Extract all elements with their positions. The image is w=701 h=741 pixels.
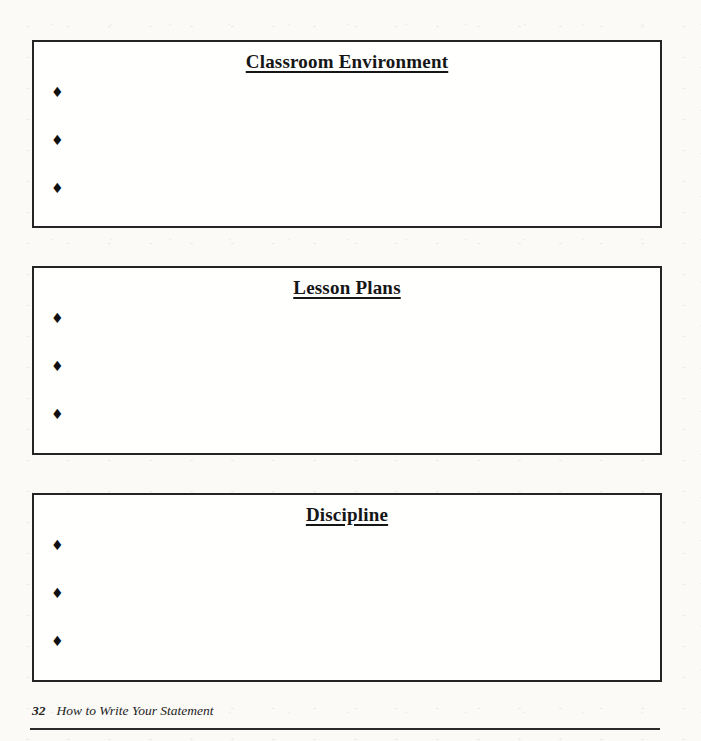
- diamond-bullet-icon: ♦: [51, 407, 64, 421]
- bullet-row: ♦: [51, 180, 624, 196]
- bullet-blank-space: [64, 311, 624, 325]
- bullet-row: ♦: [51, 406, 624, 422]
- bullet-row: ♦: [51, 358, 624, 374]
- bullet-blank-space: [64, 133, 624, 147]
- bullet-blank-space: [64, 538, 624, 552]
- footer-page-number: 32: [32, 703, 46, 719]
- bullet-blank-space: [64, 634, 624, 648]
- section-box-classroom-environment: Classroom Environment ♦ ♦ ♦: [32, 40, 662, 228]
- section-box-discipline: Discipline ♦ ♦ ♦: [32, 493, 662, 682]
- bullet-row: ♦: [51, 633, 624, 649]
- bullet-row: ♦: [51, 585, 624, 601]
- footer-book-title: How to Write Your Statement: [57, 703, 214, 719]
- diamond-bullet-icon: ♦: [51, 311, 64, 325]
- diamond-bullet-icon: ♦: [51, 634, 64, 648]
- diamond-bullet-icon: ♦: [51, 586, 64, 600]
- section-box-lesson-plans: Lesson Plans ♦ ♦ ♦: [32, 266, 662, 455]
- footer-divider-rule: [30, 728, 660, 730]
- bullet-blank-space: [64, 85, 624, 99]
- bullet-blank-space: [64, 586, 624, 600]
- bullet-blank-space: [64, 407, 624, 421]
- section-title: Lesson Plans: [34, 277, 660, 299]
- bullet-row: ♦: [51, 537, 624, 553]
- section-title: Classroom Environment: [34, 51, 660, 73]
- diamond-bullet-icon: ♦: [51, 538, 64, 552]
- page-footer: 32 How to Write Your Statement: [32, 703, 214, 719]
- diamond-bullet-icon: ♦: [51, 181, 64, 195]
- bullet-row: ♦: [51, 132, 624, 148]
- diamond-bullet-icon: ♦: [51, 133, 64, 147]
- diamond-bullet-icon: ♦: [51, 359, 64, 373]
- bullet-row: ♦: [51, 310, 624, 326]
- bullet-blank-space: [64, 181, 624, 195]
- section-title: Discipline: [34, 504, 660, 526]
- bullet-row: ♦: [51, 84, 624, 100]
- bullet-blank-space: [64, 359, 624, 373]
- diamond-bullet-icon: ♦: [51, 85, 64, 99]
